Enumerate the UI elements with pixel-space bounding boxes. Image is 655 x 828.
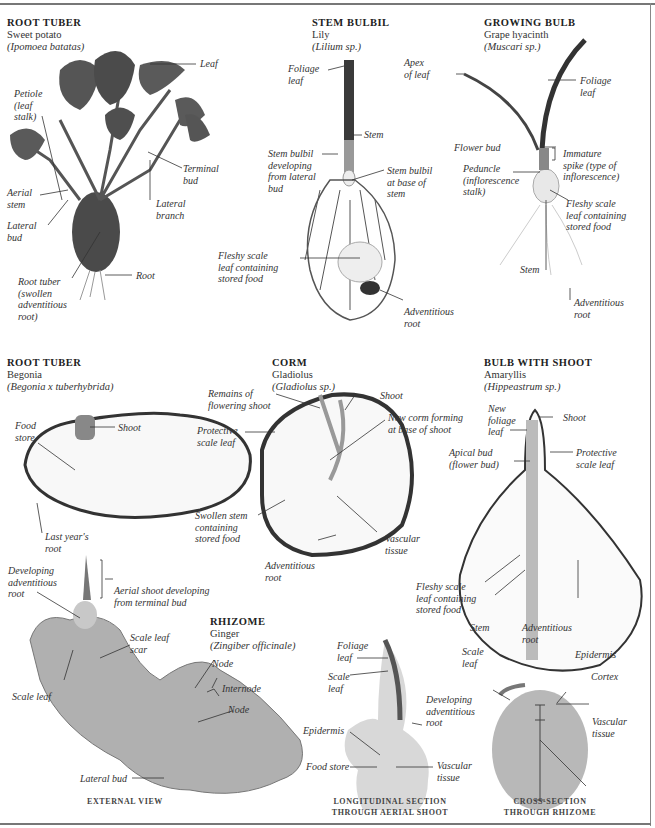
- label-lateral-bud: Lateral bud: [7, 220, 36, 243]
- label-vascular-tissue: Vascular tissue: [592, 716, 627, 739]
- heading-type: STEM BULBIL: [312, 17, 390, 29]
- label-apical-bud: Apical bud (flower bud): [449, 447, 499, 470]
- heading-type: RHIZOME: [210, 616, 295, 628]
- label-epidermis: Epidermis: [575, 649, 616, 661]
- label-scale-leaf: Scale leaf: [462, 646, 484, 669]
- label-internode: Internode: [222, 683, 261, 695]
- heading-scientific: (Muscari sp.): [484, 41, 541, 52]
- label-vascular-tissue: Vascular tissue: [437, 760, 472, 783]
- label-leaf: Leaf: [200, 58, 218, 70]
- specimen-illustrations: [0, 0, 655, 828]
- label-node-upper: Node: [212, 658, 233, 670]
- label-root: Root: [136, 270, 155, 282]
- label-new-corm: New corm forming at base of shoot: [388, 412, 463, 435]
- label-node-lower: Node: [228, 704, 249, 716]
- heading-type: BULB WITH SHOOT: [484, 357, 592, 369]
- label-adventitious-root: Adventitious root: [404, 306, 454, 329]
- label-epidermis: Epidermis: [303, 725, 344, 737]
- label-shoot: Shoot: [118, 422, 141, 434]
- label-developing-adventitious-root: Developing adventitious root: [8, 565, 57, 600]
- label-apex-of-leaf: Apex of leaf: [404, 57, 429, 80]
- heading-scientific: (Begonia x tuberhybrida): [7, 381, 114, 392]
- heading-scientific: (Ipomoea batatas): [7, 41, 84, 52]
- label-lateral-bud: Lateral bud: [80, 773, 127, 785]
- label-adventitious-root: Adventitious root: [265, 560, 315, 583]
- heading-common: Grape hyacinth: [484, 29, 575, 41]
- caption-longitudinal-section: LONGITUDINAL SECTION THROUGH AERIAL SHOO…: [320, 796, 460, 818]
- label-foliage-leaf: Foliage leaf: [580, 75, 611, 98]
- heading-type: ROOT TUBER: [7, 357, 114, 369]
- label-aerial-shoot: Aerial shoot developing from terminal bu…: [114, 585, 210, 608]
- label-scale-leaf: Scale leaf: [12, 691, 51, 703]
- label-fleshy-scale-leaf: Fleshy scale leaf containing stored food: [416, 581, 476, 616]
- heading-common: Amaryllis: [484, 369, 592, 381]
- label-new-foliage-leaf: New foliage leaf: [488, 403, 516, 438]
- label-cortex: Cortex: [591, 671, 618, 683]
- label-adventitious-root: Adventitious root: [522, 622, 572, 645]
- label-stem: Stem: [470, 622, 489, 634]
- heading-common: Sweet potato: [7, 29, 84, 41]
- label-shoot: Shoot: [380, 390, 403, 402]
- heading-type: ROOT TUBER: [7, 17, 84, 29]
- label-stem-bulbil-base: Stem bulbil at base of stem: [387, 165, 432, 200]
- heading-begonia: ROOT TUBER Begonia (Begonia x tuberhybri…: [7, 357, 114, 393]
- heading-scientific: (Zingiber officinale): [210, 640, 295, 651]
- label-terminal-bud: Terminal bud: [183, 163, 219, 186]
- label-scale-leaf-scar: Scale leaf scar: [130, 632, 169, 655]
- caption-cross-section: CROSS-SECTION THROUGH RHIZOME: [490, 796, 610, 818]
- label-immature-spike: Immature spike (type of inflorescence): [563, 148, 619, 183]
- label-developing-adventitious-root: Developing adventitious root: [426, 694, 475, 729]
- lily-illustration: [305, 60, 395, 320]
- heading-gladiolus: CORM Gladiolus (Gladiolus sp.): [272, 357, 335, 393]
- heading-type: GROWING BULB: [484, 17, 575, 29]
- label-vascular-tissue: Vascular tissue: [385, 533, 420, 556]
- heading-scientific: (Gladiolus sp.): [272, 381, 335, 392]
- label-foliage-leaf: Foliage leaf: [288, 63, 319, 86]
- heading-type: CORM: [272, 357, 335, 369]
- label-swollen-stem: Swollen stem containing stored food: [195, 510, 248, 545]
- label-food-store: Food store: [306, 761, 349, 773]
- label-scale-leaf: Scale leaf: [328, 671, 350, 694]
- label-stem: Stem: [364, 129, 383, 141]
- label-adventitious-root: Adventitious root: [574, 297, 624, 320]
- heading-sweet-potato: ROOT TUBER Sweet potato (Ipomoea batatas…: [7, 17, 84, 53]
- heading-common: Lily: [312, 29, 390, 41]
- heading-common: Begonia: [7, 369, 114, 381]
- label-protective-scale-leaf: Protective scale leaf: [197, 425, 238, 448]
- label-fleshy-scale-leaf: Fleshy scale leaf containing stored food: [218, 250, 278, 285]
- label-shoot: Shoot: [563, 412, 586, 424]
- heading-ginger: RHIZOME Ginger (Zingiber officinale): [210, 616, 295, 652]
- heading-lily: STEM BULBIL Lily (Lilium sp.): [312, 17, 390, 53]
- label-foliage-leaf: Foliage leaf: [337, 640, 368, 663]
- label-petiole: Petiole (leaf stalk): [14, 88, 42, 123]
- label-peduncle: Peduncle (inflorescence stalk): [463, 163, 519, 198]
- label-stem: Stem: [520, 264, 539, 276]
- label-last-years-root: Last year's root: [45, 531, 89, 554]
- label-flower-bud: Flower bud: [454, 142, 500, 154]
- heading-common: Ginger: [210, 628, 295, 640]
- heading-amaryllis: BULB WITH SHOOT Amaryllis (Hippeastrum s…: [484, 357, 592, 393]
- label-remains-flowering-shoot: Remains of flowering shoot: [208, 388, 271, 411]
- longitudinal-section-illustration: [345, 640, 429, 810]
- caption-external-view: EXTERNAL VIEW: [60, 796, 190, 807]
- label-protective-scale-leaf: Protective scale leaf: [576, 447, 617, 470]
- heading-grape-hyacinth: GROWING BULB Grape hyacinth (Muscari sp.…: [484, 17, 575, 53]
- heading-common: Gladiolus: [272, 369, 335, 381]
- label-stem-bulbil-lateral: Stem bulbil developing from lateral bud: [268, 148, 316, 194]
- label-fleshy-scale-leaf: Fleshy scale leaf containing stored food: [566, 198, 626, 233]
- label-aerial-stem: Aerial stem: [7, 187, 32, 210]
- label-root-tuber: Root tuber (swollen adventitious root): [18, 276, 67, 322]
- label-food-store: Food store: [15, 420, 36, 443]
- heading-scientific: (Lilium sp.): [312, 41, 361, 52]
- label-lateral-branch: Lateral branch: [156, 198, 185, 221]
- heading-scientific: (Hippeastrum sp.): [484, 381, 560, 392]
